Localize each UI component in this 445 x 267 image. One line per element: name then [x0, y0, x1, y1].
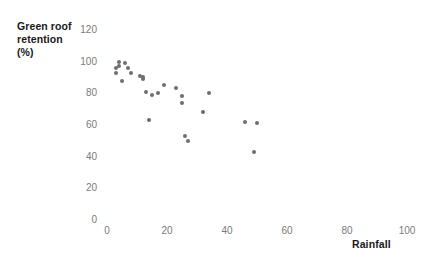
- data-point: [207, 91, 211, 95]
- data-point: [123, 61, 127, 65]
- data-point: [117, 60, 121, 64]
- scatter-plot-figure: Green roof retention (%) Rainfall 020406…: [0, 0, 445, 267]
- data-point: [144, 90, 148, 94]
- data-point: [117, 64, 121, 68]
- plot-area: [0, 0, 445, 267]
- data-point: [183, 134, 187, 138]
- data-point: [201, 110, 205, 114]
- data-point: [162, 83, 166, 87]
- data-point: [150, 93, 154, 97]
- data-point: [126, 66, 130, 70]
- data-point: [141, 77, 145, 81]
- data-point: [180, 101, 184, 105]
- data-point: [156, 91, 160, 95]
- data-point: [120, 79, 124, 83]
- data-point: [129, 71, 133, 75]
- data-point: [186, 139, 190, 143]
- data-point: [180, 94, 184, 98]
- data-point: [255, 121, 259, 125]
- data-point: [114, 71, 118, 75]
- data-point: [243, 120, 247, 124]
- data-point: [252, 150, 256, 154]
- data-point: [147, 118, 151, 122]
- data-point: [174, 86, 178, 90]
